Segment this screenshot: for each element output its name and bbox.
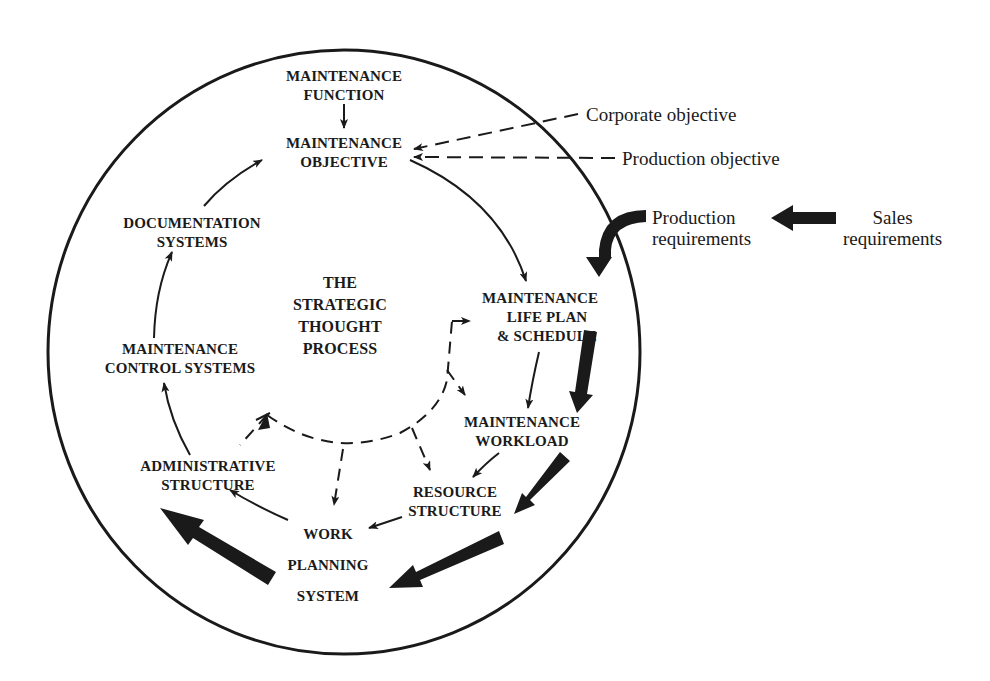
node-administrative-structure: ADMINISTRATIVE STRUCTURE xyxy=(108,457,308,495)
node-line: CONTROL SYSTEMS xyxy=(80,359,280,378)
node-line: LIFE PLAN xyxy=(440,308,640,327)
node-line: SYSTEM xyxy=(228,581,428,612)
node-line: DOCUMENTATION xyxy=(92,214,292,233)
node-line: ADMINISTRATIVE xyxy=(108,457,308,476)
ext-line: Production xyxy=(652,207,751,228)
node-line: WORK xyxy=(228,519,428,550)
node-maintenance-workload: MAINTENANCE WORKLOAD xyxy=(422,413,622,451)
node-line: PLANNING xyxy=(228,550,428,581)
external-sales-requirements: Sales requirements xyxy=(843,207,942,249)
arrow-control-to-documentation xyxy=(154,252,172,338)
node-documentation-systems: DOCUMENTATION SYSTEMS xyxy=(92,214,292,252)
external-corporate-objective: Corporate objective xyxy=(586,104,736,125)
external-objective-arrows xyxy=(414,114,615,158)
node-line: MAINTENANCE xyxy=(244,67,444,86)
node-line: MAINTENANCE xyxy=(440,289,640,308)
arrow-production-objective xyxy=(414,157,615,158)
external-production-objective: Production objective xyxy=(622,148,780,169)
node-maintenance-control-systems: MAINTENANCE CONTROL SYSTEMS xyxy=(80,340,280,378)
node-line: SYSTEMS xyxy=(92,233,292,252)
center-title-strategic-thought-process: THE STRATEGIC THOUGHT PROCESS xyxy=(255,272,425,360)
node-line: MAINTENANCE xyxy=(422,413,622,432)
center-title-line: PROCESS xyxy=(255,338,425,360)
node-line: RESOURCE xyxy=(355,483,555,502)
arrow-lifeplan-to-workload xyxy=(528,352,539,408)
node-line: FUNCTION xyxy=(244,86,444,105)
dashed-to-workload xyxy=(447,370,465,395)
node-work-planning-system: WORK PLANNING SYSTEM xyxy=(228,519,428,612)
ext-line: Sales xyxy=(843,207,942,228)
node-line: WORKLOAD xyxy=(422,432,622,451)
ext-line: requirements xyxy=(652,228,751,249)
node-line: STRUCTURE xyxy=(108,476,308,495)
bold-arrow-production-to-lifeplan xyxy=(586,210,646,277)
node-line: OBJECTIVE xyxy=(244,153,444,172)
node-maintenance-objective: MAINTENANCE OBJECTIVE xyxy=(244,134,444,172)
node-line: & SCHEDULE xyxy=(440,327,640,346)
dashed-to-admin xyxy=(240,415,267,445)
node-line: MAINTENANCE xyxy=(244,134,444,153)
node-maintenance-function: MAINTENANCE FUNCTION xyxy=(244,67,444,105)
node-resource-structure: RESOURCE STRUCTURE xyxy=(355,483,555,521)
node-maintenance-life-plan: MAINTENANCE LIFE PLAN & SCHEDULE xyxy=(440,289,640,346)
node-line: MAINTENANCE xyxy=(80,340,280,359)
center-title-line: THOUGHT xyxy=(255,316,425,338)
center-title-line: THE xyxy=(255,272,425,294)
dashed-to-work xyxy=(334,449,343,505)
external-production-requirements: Production requirements xyxy=(652,207,751,249)
arrow-admin-to-control xyxy=(164,383,190,455)
arrow-workload-to-resource xyxy=(473,453,499,477)
bold-arrow-sales-to-production xyxy=(771,205,836,231)
center-title-line: STRATEGIC xyxy=(255,294,425,316)
ext-line: requirements xyxy=(843,228,942,249)
arrow-objective-to-lifeplan xyxy=(410,160,526,281)
